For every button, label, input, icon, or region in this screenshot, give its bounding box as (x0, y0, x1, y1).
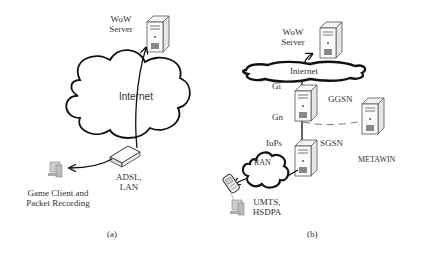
internet-label-b: Internet (290, 66, 318, 76)
metawin-label: METAWIN (358, 155, 395, 165)
wow-server-label-b: WoW Server (276, 27, 310, 47)
caption-b: (b) (307, 229, 318, 239)
ggsn-server-icon (295, 85, 317, 121)
label-line: Server (104, 24, 138, 34)
label-line: HSDPA (250, 207, 284, 217)
gn-interface-label: Gn (272, 112, 283, 122)
label-line: Packet Recording (18, 198, 98, 208)
ran-label: RAN (254, 158, 271, 168)
iups-interface-label: IuPs (266, 138, 282, 148)
sgsn-server-icon (295, 140, 317, 176)
gi-interface-label: Gi (272, 81, 281, 91)
internet-label-a: Internet (119, 92, 153, 102)
mobile-phone-icon (222, 173, 241, 193)
label-line: ADSL, (112, 172, 146, 182)
client-computer-icon (230, 200, 244, 215)
caption-a: (a) (107, 229, 117, 239)
adsl-modem-icon (110, 146, 140, 167)
label-line: LAN (112, 182, 146, 192)
label-line: WoW (104, 14, 138, 24)
game-client-computer-icon (48, 162, 62, 177)
adsl-lan-label: ADSL, LAN (112, 172, 146, 192)
label-line: WoW (276, 27, 310, 37)
panel-b (222, 22, 384, 215)
wow-server-icon (320, 22, 342, 58)
ggsn-label: GGSN (328, 94, 353, 104)
label-line: Game Client and (18, 188, 98, 198)
umts-hsdpa-label: UMTS, HSDPA (250, 197, 284, 217)
network-diagram (0, 0, 425, 253)
wow-server-label-a: WoW Server (104, 14, 138, 34)
sgsn-label: SGSN (320, 138, 343, 148)
metawin-server-icon (362, 98, 384, 134)
game-client-label: Game Client and Packet Recording (18, 188, 98, 208)
wow-server-icon (147, 16, 169, 52)
label-line: UMTS, (250, 197, 284, 207)
label-line: Server (276, 37, 310, 47)
